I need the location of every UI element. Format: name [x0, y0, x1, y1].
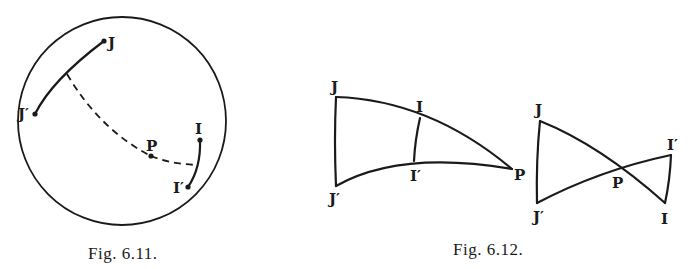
- caption-fig-6-12: Fig. 6.12.: [453, 240, 523, 259]
- label-j: J: [533, 101, 542, 119]
- label-j: J: [329, 78, 338, 96]
- arc-jprime-iprime: [537, 155, 671, 203]
- dashed-arc-p-to-i: [151, 156, 198, 165]
- dashed-arc-to-p: [67, 74, 151, 156]
- point-i-prime: [185, 184, 190, 189]
- side-j-jprime: [335, 97, 336, 186]
- label-p: P: [514, 166, 525, 184]
- label-i-prime: I′: [667, 136, 678, 154]
- label-j-prime: J′: [327, 190, 340, 208]
- arc-i-iprime: [188, 140, 200, 187]
- figures-canvas: J J′ P I I′ Fig. 6.11. J I J′ I′ P J I′ …: [0, 0, 698, 269]
- point-j-prime: [32, 111, 37, 116]
- arc-j-p: [336, 97, 512, 169]
- side-j-jprime: [537, 121, 540, 203]
- side-iprime-i: [665, 155, 671, 203]
- figure-6-11: J J′ P I I′ Fig. 6.11.: [16, 17, 226, 263]
- label-i: I: [661, 210, 668, 228]
- label-j: J: [106, 34, 115, 52]
- figure-6-12-left: J I J′ I′ P: [327, 78, 525, 208]
- label-i-prime: I′: [173, 179, 184, 197]
- label-i: I: [416, 98, 423, 116]
- caption-fig-6-11: Fig. 6.11.: [88, 244, 158, 263]
- label-i-prime: I′: [410, 167, 421, 185]
- label-i: I: [195, 120, 202, 138]
- arc-i-iprime: [414, 118, 420, 161]
- label-j-prime: J′: [16, 105, 29, 123]
- label-p: P: [146, 137, 157, 155]
- label-j-prime: J′: [531, 208, 544, 226]
- point-j: [101, 38, 106, 43]
- arc-jprime-p: [336, 162, 512, 186]
- point-i: [197, 137, 202, 142]
- label-p: P: [612, 174, 623, 192]
- figure-6-12-right: J I′ P J′ I: [531, 101, 678, 228]
- arc-j-i: [540, 121, 665, 203]
